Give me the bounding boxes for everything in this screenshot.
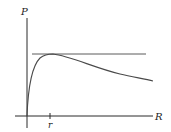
x-axis-label: R — [154, 111, 163, 122]
power-curve — [27, 54, 153, 116]
y-axis-label: P — [20, 6, 28, 17]
diagram-canvas: P R r — [0, 0, 171, 132]
tick-label-r: r — [48, 120, 53, 130]
